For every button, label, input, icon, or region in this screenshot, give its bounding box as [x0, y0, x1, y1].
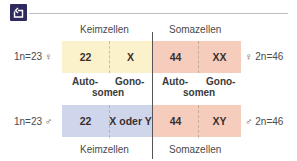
cell-male-soma-gonosomes: XY: [198, 105, 241, 137]
return-arrow-glyph: [13, 7, 24, 18]
cell-male-soma-autosomes: 44: [153, 105, 198, 137]
male-haploid-label: 1n=23 ♂: [14, 116, 52, 127]
dashed-divider: [109, 41, 110, 73]
male-diploid-label: ♂ 2n=46: [245, 116, 283, 127]
cell-female-soma-gonosomes: XX: [198, 41, 241, 73]
cell-male-gonosome: X oder Y: [109, 105, 152, 137]
cell-female-autosomes: 22: [62, 41, 109, 73]
female-haploid-label: 1n=23 ♀: [14, 51, 52, 62]
back-arrow-icon[interactable]: [10, 4, 27, 21]
somen-label-right: somen: [183, 87, 215, 98]
header-keimzellen: Keimzellen: [80, 24, 129, 35]
cell-female-soma-autosomes: 44: [153, 41, 198, 73]
header-somazellen: Somazellen: [169, 24, 221, 35]
autosomes-label-left: Auto-: [72, 76, 98, 87]
cell-female-gonosome: X: [109, 41, 152, 73]
female-diploid-label: ♀ 2n=46: [245, 51, 283, 62]
header-rule: [29, 13, 288, 14]
dashed-divider: [198, 41, 199, 73]
somen-label-left: somen: [92, 87, 124, 98]
dashed-divider: [198, 105, 199, 138]
cell-male-autosomes: 22: [62, 105, 109, 137]
gonosomes-label-right: Gono-: [206, 76, 235, 87]
gonosomes-label-left: Gono-: [115, 76, 144, 87]
dashed-divider: [109, 105, 110, 138]
footer-keimzellen: Keimzellen: [80, 144, 129, 155]
footer-somazellen: Somazellen: [169, 144, 221, 155]
autosomes-label-right: Auto-: [162, 76, 188, 87]
